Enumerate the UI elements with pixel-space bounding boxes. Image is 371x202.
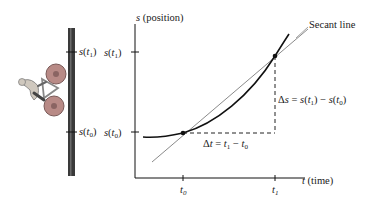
point-t0 — [181, 131, 186, 136]
x-axis-label: t (time) — [302, 175, 334, 187]
delta-s-label: Δs = s(t1) − s(t0) — [278, 94, 347, 107]
pole-label-s-t1: s(t1) — [79, 46, 97, 59]
y-tick-s-t0: s(t0) — [104, 127, 122, 140]
x-tick-t1: t1 — [272, 184, 278, 197]
secant-label: Secant line — [309, 19, 356, 30]
position-curve — [143, 34, 289, 137]
secant-diagram: s(t1) s(t0) s (position) t (time) s(t1) … — [0, 0, 371, 202]
point-t1 — [273, 54, 278, 59]
position-pole — [66, 28, 77, 176]
y-axis-label: s (position) — [136, 12, 184, 24]
y-tick-s-t1: s(t1) — [104, 47, 122, 60]
secant-leader — [296, 27, 308, 38]
bicycle-rider-icon — [19, 64, 67, 116]
x-tick-t0: t0 — [180, 184, 187, 197]
delta-t-label: Δt = t1 − t0 — [203, 138, 248, 151]
pole-label-s-t0: s(t0) — [79, 126, 97, 139]
